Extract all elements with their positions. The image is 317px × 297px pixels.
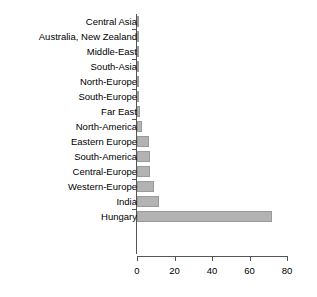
bar-rows: Central AsiaAustralia, New ZealandMiddle… <box>0 14 317 224</box>
bar-track <box>137 181 307 192</box>
bar-track <box>137 211 307 222</box>
y-axis-tick <box>132 29 137 30</box>
x-axis-tick-label: 20 <box>169 265 180 276</box>
bar <box>137 136 149 147</box>
bar-row: Far East <box>0 104 317 119</box>
bar-track <box>137 91 307 102</box>
x-axis-tick <box>212 256 213 261</box>
bar-track <box>137 196 307 207</box>
x-axis-tick <box>137 256 138 261</box>
bar-row: South-Europe <box>0 89 317 104</box>
bar-row: Central-Europe <box>0 164 317 179</box>
category-label: South-Asia <box>0 59 137 74</box>
category-label: Hungary <box>0 209 137 224</box>
bar <box>137 91 139 102</box>
bar <box>137 106 140 117</box>
bar-row: Middle-East <box>0 44 317 59</box>
bar <box>137 46 139 57</box>
x-axis-tick-label: 40 <box>207 265 218 276</box>
bar-row: North-Europe <box>0 74 317 89</box>
bar <box>137 166 150 177</box>
category-label: South-Europe <box>0 89 137 104</box>
category-label: North-America <box>0 119 137 134</box>
y-axis-tick <box>132 149 137 150</box>
x-axis-tick <box>250 256 251 261</box>
category-label: Central Asia <box>0 14 137 29</box>
bar <box>137 31 139 42</box>
bar-row: Eastern Europe <box>0 134 317 149</box>
bar-track <box>137 106 307 117</box>
x-axis-tick-label: 60 <box>244 265 255 276</box>
bar-row: North-America <box>0 119 317 134</box>
bar-row: Australia, New Zealand <box>0 29 317 44</box>
bar <box>137 196 159 207</box>
bar-row: India <box>0 194 317 209</box>
bar-row: South-Asia <box>0 59 317 74</box>
category-label: Australia, New Zealand <box>0 29 137 44</box>
bar-track <box>137 31 307 42</box>
bar-track <box>137 166 307 177</box>
category-label: Eastern Europe <box>0 134 137 149</box>
y-axis-tick <box>132 59 137 60</box>
x-axis-tick-label: 0 <box>134 265 139 276</box>
bar <box>137 121 142 132</box>
bar-track <box>137 16 307 27</box>
bar <box>137 211 272 222</box>
bar-track <box>137 121 307 132</box>
category-label: Central-Europe <box>0 164 137 179</box>
bar-chart: Central AsiaAustralia, New ZealandMiddle… <box>0 0 317 297</box>
y-axis-tick <box>132 89 137 90</box>
bar-row: Central Asia <box>0 14 317 29</box>
bar <box>137 61 139 72</box>
bar-track <box>137 136 307 147</box>
bar-track <box>137 151 307 162</box>
bar <box>137 181 154 192</box>
y-axis-tick <box>132 179 137 180</box>
category-label: Middle-East <box>0 44 137 59</box>
category-label: South-America <box>0 149 137 164</box>
bar <box>137 16 139 27</box>
bar-row: South-America <box>0 149 317 164</box>
bar <box>137 76 139 87</box>
bar-row: Western-Europe <box>0 179 317 194</box>
category-label: Western-Europe <box>0 179 137 194</box>
y-axis-tick <box>132 119 137 120</box>
bar <box>137 151 150 162</box>
y-axis-tick <box>132 209 137 210</box>
x-axis-tick <box>287 256 288 261</box>
bar-track <box>137 76 307 87</box>
category-label: North-Europe <box>0 74 137 89</box>
x-axis-tick <box>175 256 176 261</box>
category-label: Far East <box>0 104 137 119</box>
category-label: India <box>0 194 137 209</box>
bar-track <box>137 46 307 57</box>
x-axis-tick-label: 80 <box>282 265 293 276</box>
bar-row: Hungary <box>0 209 317 224</box>
bar-track <box>137 61 307 72</box>
plot-area: Central AsiaAustralia, New ZealandMiddle… <box>0 0 317 297</box>
